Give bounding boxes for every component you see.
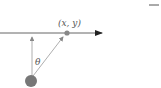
target-point [64,30,69,35]
point-label: (x, y) [58,18,81,28]
origin-point [25,75,37,87]
diagram-canvas: (x, y) θ [0,0,161,88]
angle-label: θ [35,57,41,67]
